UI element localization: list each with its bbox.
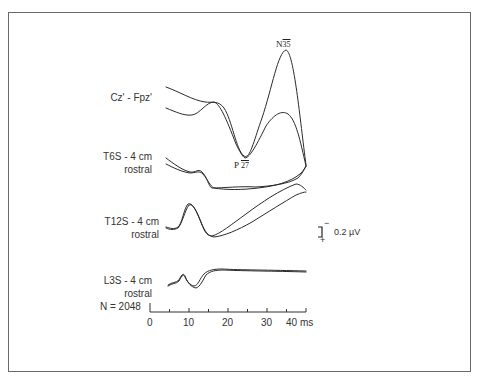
trace-cz-fpz-b — [166, 102, 306, 166]
time-axis — [150, 303, 306, 312]
tick-10: 10 — [183, 317, 194, 328]
peak-latency: 35 — [283, 40, 291, 49]
peak-letter: P — [234, 160, 239, 170]
sweep-count-label: N = 2048 — [100, 301, 141, 312]
peak-label-n35: N35 — [276, 39, 291, 49]
tick-20: 20 — [222, 317, 233, 328]
tick-40: 40 ms — [286, 317, 313, 328]
trace-t12s-a — [166, 184, 306, 236]
scale-minus: − — [324, 218, 329, 228]
tick-30: 30 — [261, 317, 272, 328]
peak-latency: 27 — [241, 161, 249, 170]
trace-t12s-b — [166, 192, 306, 237]
scale-value: 0.2 µV — [334, 227, 360, 237]
scale-plus: + — [320, 235, 325, 245]
trace-cz-fpz-a — [166, 50, 306, 165]
waveform-plot — [0, 0, 481, 384]
peak-label-p27: P 27 — [234, 160, 249, 170]
trace-l3s-b — [168, 270, 306, 288]
tick-0: 0 — [147, 317, 153, 328]
